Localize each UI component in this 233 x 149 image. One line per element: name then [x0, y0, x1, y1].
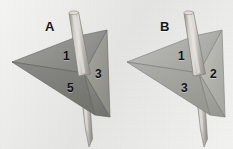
panel-a-rod-top-cap	[69, 11, 79, 15]
panel-b-rod-top-cap	[184, 11, 194, 15]
panel-b-face-number-1: 1	[178, 50, 185, 62]
panel-b-face-number-2: 2	[210, 68, 217, 80]
panel-a-face-number-5: 5	[67, 82, 74, 94]
panel-label-a: A	[45, 20, 55, 33]
panel-label-b: B	[160, 20, 170, 33]
panel-a-face-number-1: 1	[63, 50, 70, 62]
panel-b-face-number-3: 3	[181, 82, 188, 94]
panel-a-face-number-3: 3	[95, 68, 102, 80]
figure-canvas: A B 1 3 5 1 2 3	[0, 0, 233, 149]
figure-artwork	[0, 0, 233, 149]
